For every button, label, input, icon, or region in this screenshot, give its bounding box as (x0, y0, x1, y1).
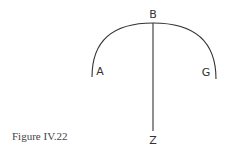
label-B: B (149, 8, 157, 21)
label-A: A (96, 65, 104, 78)
arc-AG (92, 23, 216, 79)
label-G: G (202, 66, 211, 79)
figure-caption: Figure IV.22 (12, 130, 67, 142)
label-Z: Z (149, 134, 157, 147)
figure-diagram: B A G Z Figure IV.22 (0, 0, 227, 155)
